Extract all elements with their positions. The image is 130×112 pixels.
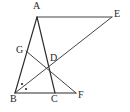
segment-EB xyxy=(15,17,112,93)
vertex-label-F: F xyxy=(78,90,84,100)
vertex-label-C: C xyxy=(51,94,58,104)
geometry-canvas xyxy=(0,0,130,112)
vertex-label-G: G xyxy=(16,45,23,55)
vertex-label-D: D xyxy=(50,53,57,63)
vertex-label-E: E xyxy=(114,9,120,19)
vertex-label-B: B xyxy=(10,94,17,104)
angle-mark-abd xyxy=(21,83,23,85)
angle-mark-dbc xyxy=(25,88,27,90)
segment-AB xyxy=(15,17,37,93)
segments-group xyxy=(15,17,112,93)
geometry-figure: A B C D E F G xyxy=(0,0,130,112)
vertex-label-A: A xyxy=(33,1,40,11)
